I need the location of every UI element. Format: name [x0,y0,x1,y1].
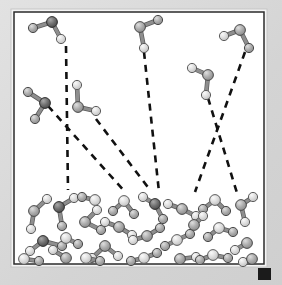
liquid-molecule-20-atom-center [242,238,253,249]
liquid-molecule-10-atom-outer-1 [100,217,109,226]
simulation-box [14,12,264,264]
liquid-molecule-5-atom-outer-1 [34,256,43,265]
gas-molecule-5-atom-center [203,70,214,81]
liquid-molecule-11-atom-outer-2 [158,214,167,223]
liquid-molecule-19-atom-center [214,223,225,234]
liquid-molecule-4-atom-center [38,236,49,247]
liquid-molecule-18-atom-center [236,200,247,211]
gas-molecule-4-atom-outer-2 [139,43,148,52]
liquid-molecule-17-atom-outer-1 [221,206,230,215]
simulation-box-frame [14,12,264,264]
liquid-molecule-20-atom-outer-1 [230,245,239,254]
liquid-molecule-16-atom-center [175,254,186,265]
gas-molecule-1-atom-outer-2 [56,34,65,43]
liquid-molecule-12-atom-center [177,204,188,215]
liquid-molecule-6-atom-outer-1 [48,245,57,254]
liquid-molecule-22-atom-outer-1 [77,192,86,201]
liquid-molecule-15-atom-outer-1 [126,256,135,265]
liquid-molecule-18-atom-outer-1 [248,192,257,201]
liquid-molecule-7-atom-center [100,241,111,252]
gas-molecule-6-atom-outer-1 [219,31,228,40]
gas-molecule-5-atom-outer-1 [187,63,196,72]
gas-molecule-4-atom-outer-1 [153,15,162,24]
liquid-molecule-14-atom-center [172,235,183,246]
liquid-molecule-21-atom-outer-2 [195,255,204,264]
molecular-phase-figure [0,0,282,285]
liquid-molecule-7-atom-outer-2 [113,251,122,260]
liquid-molecule-25-atom-outer-1 [198,211,207,220]
gas-molecule-6-atom-outer-2 [244,43,253,52]
liquid-molecule-15-atom-center [139,253,150,264]
liquid-molecule-8-atom-center [81,253,92,264]
gas-molecule-3-atom-center [73,102,84,113]
liquid-molecule-11-atom-outer-1 [138,192,147,201]
liquid-molecule-22-atom-center [90,195,101,206]
liquid-molecule-21-atom-outer-1 [223,253,232,262]
liquid-molecule-2-atom-center [54,202,65,213]
gas-molecule-2-atom-outer-2 [30,114,39,123]
gas-molecule-1-atom-center [47,17,58,28]
liquid-molecule-3-atom-outer-1 [92,205,101,214]
liquid-molecule-1-atom-center [29,206,40,217]
corner-square-marker [258,268,271,280]
gas-molecule-2-atom-outer-1 [23,87,32,96]
liquid-molecule-13-atom-center [142,231,153,242]
liquid-molecule-13-atom-outer-2 [155,223,164,232]
liquid-molecule-9-atom-outer-2 [108,206,117,215]
liquid-molecule-9-atom-center [119,196,130,207]
liquid-molecule-1-atom-outer-1 [42,194,51,203]
liquid-molecule-15-atom-outer-2 [152,248,161,257]
gas-molecule-4-atom-center [135,22,146,33]
liquid-molecule-1-atom-outer-2 [26,224,35,233]
liquid-molecule-19-atom-outer-2 [203,232,212,241]
gas-molecule-2-atom-center [40,98,51,109]
liquid-molecule-25-atom-center [189,220,200,231]
scene-canvas [0,0,282,285]
liquid-molecule-24-atom-outer-1 [73,239,82,248]
liquid-molecule-11-atom-center [150,199,161,210]
gas-molecule-3-atom-outer-2 [91,106,100,115]
liquid-molecule-9-atom-outer-1 [129,209,138,218]
liquid-molecule-8-atom-outer-1 [95,256,104,265]
liquid-molecule-24-atom-center [61,233,72,244]
gas-molecule-5-atom-outer-2 [201,90,210,99]
liquid-molecule-3-atom-center [80,217,91,228]
liquid-molecule-21-atom-center [208,250,219,261]
liquid-molecule-6-atom-center [61,253,72,264]
liquid-molecule-5-atom-center [19,254,30,265]
liquid-molecule-23-atom-center [247,254,258,265]
liquid-molecule-13-atom-outer-1 [128,235,137,244]
liquid-molecule-14-atom-outer-1 [160,241,169,250]
liquid-molecule-19-atom-outer-1 [228,227,237,236]
liquid-molecule-2-atom-outer-2 [57,221,66,230]
liquid-molecule-12-atom-outer-1 [163,199,172,208]
gas-molecule-1-atom-outer-1 [28,23,37,32]
gas-molecule-3-atom-outer-1 [72,80,81,89]
liquid-molecule-10-atom-center [114,222,125,233]
gas-molecule-6-atom-center [235,25,246,36]
liquid-molecule-17-atom-center [210,195,221,206]
liquid-molecule-18-atom-outer-2 [240,217,249,226]
